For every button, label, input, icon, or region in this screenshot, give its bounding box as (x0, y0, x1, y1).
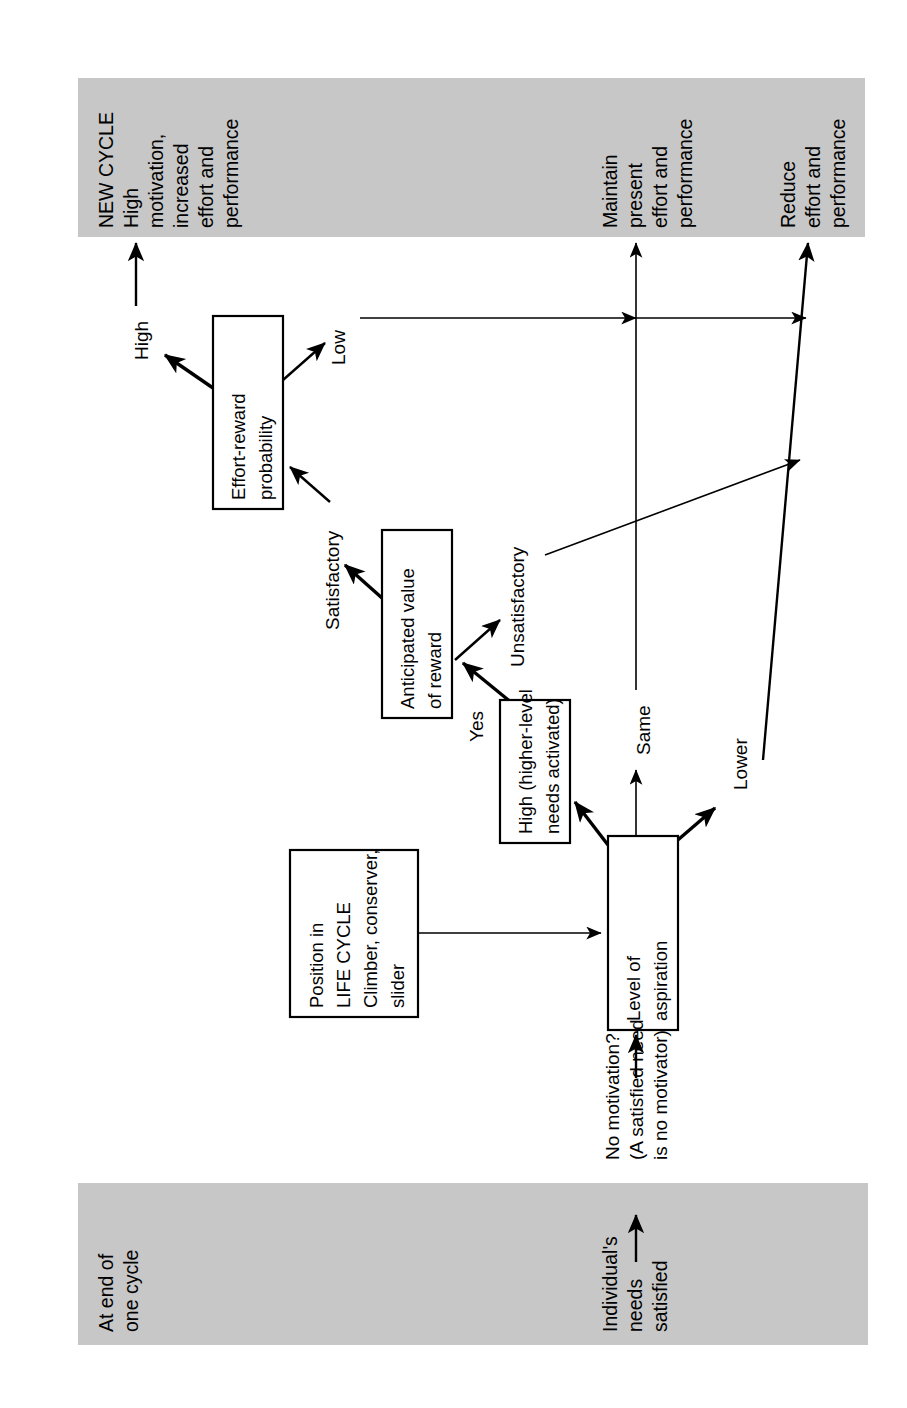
at-end-line-0: At end of (95, 1253, 117, 1332)
edge-label-satisfactory: Satisfactory (322, 530, 343, 630)
high-needs-line-1: needs activated) (542, 698, 563, 834)
new-cycle-line-3: increased (170, 143, 192, 228)
edge-effort-reward-high (165, 355, 213, 388)
individual-line-0: Individual's (599, 1236, 621, 1332)
maintain-line-1: present (624, 162, 646, 228)
high-needs-line-0: High (higher-level (515, 689, 536, 834)
edge-anticipated-unsatisfactory (455, 620, 500, 660)
new-cycle-line-1: High (120, 188, 142, 228)
edge-label-yes: Yes (466, 711, 487, 742)
lifecycle-line-0: Position in (306, 923, 327, 1008)
edge-satisfactory-to-effort-reward (290, 467, 330, 502)
edge-aspiration-to-high-needs (575, 802, 608, 845)
new-cycle-line-5: performance (220, 119, 242, 228)
edge-label-lower: Lower (730, 738, 751, 790)
reduce-line-2: performance (827, 119, 849, 228)
edge-label-low: Low (328, 330, 349, 365)
maintain-line-0: Maintain (599, 154, 621, 228)
label-satisfactory: Satisfactory (322, 530, 343, 630)
maintain-line-2: effort and (649, 146, 671, 228)
new-cycle-line-4: effort and (195, 146, 217, 228)
edge-anticipated-satisfactory (345, 565, 382, 598)
label-lower: Lower (730, 738, 751, 790)
no-motivation-line-1: (A satisfied need (626, 1020, 647, 1160)
no-motivation-line-0: No motivation? (602, 1033, 623, 1160)
at-end-line-1: one cycle (120, 1250, 142, 1332)
individual-line-2: satisfied (649, 1260, 671, 1332)
lifecycle-line-2: Climber, conserver, (360, 850, 381, 1008)
label-unsatisfactory: Unsatisfactory (507, 546, 528, 667)
end-of-cycle-band (78, 1183, 868, 1345)
lifecycle-line-1: LIFE CYCLE (333, 902, 354, 1008)
edge-label-same: Same (633, 705, 654, 755)
label-same: Same (633, 705, 654, 755)
aspiration-line-0: Level of (623, 955, 644, 1021)
edge-lower-to-reduce (763, 243, 808, 760)
edge-high-needs-to-anticipated-value (463, 663, 512, 703)
edge-unsatisfactory-to-reduce (545, 460, 800, 555)
reduce-line-0: Reduce (777, 161, 799, 228)
individual-line-1: needs (624, 1279, 646, 1332)
label-high: High (131, 321, 152, 360)
reduce-line-1: effort and (802, 146, 824, 228)
effort-reward-line-0: Effort-reward (228, 393, 249, 500)
effort-reward-line-1: probability (255, 415, 276, 500)
new-cycle-line-0: NEW CYCLE (95, 112, 117, 228)
edge-label-no-motivation: No motivation? (A satisfied need is no m… (602, 1020, 671, 1160)
anticipated-line-0: Anticipated value (397, 568, 418, 709)
anticipated-line-1: of reward (424, 632, 445, 709)
edge-label-unsatisfactory: Unsatisfactory (507, 546, 528, 667)
no-motivation-line-2: is no motivator) (650, 1030, 671, 1160)
flowchart-diagram: NEW CYCLE High motivation, increased eff… (0, 0, 907, 1408)
new-cycle-line-2: motivation, (145, 134, 167, 228)
label-yes: Yes (466, 711, 487, 742)
flowchart-canvas: NEW CYCLE High motivation, increased eff… (0, 0, 907, 1408)
lifecycle-line-3: slider (387, 964, 408, 1008)
maintain-line-3: performance (674, 119, 696, 228)
edge-effort-reward-low (283, 343, 325, 380)
edge-label-high: High (131, 321, 152, 360)
aspiration-line-1: aspiration (650, 941, 671, 1021)
label-low: Low (328, 330, 349, 365)
